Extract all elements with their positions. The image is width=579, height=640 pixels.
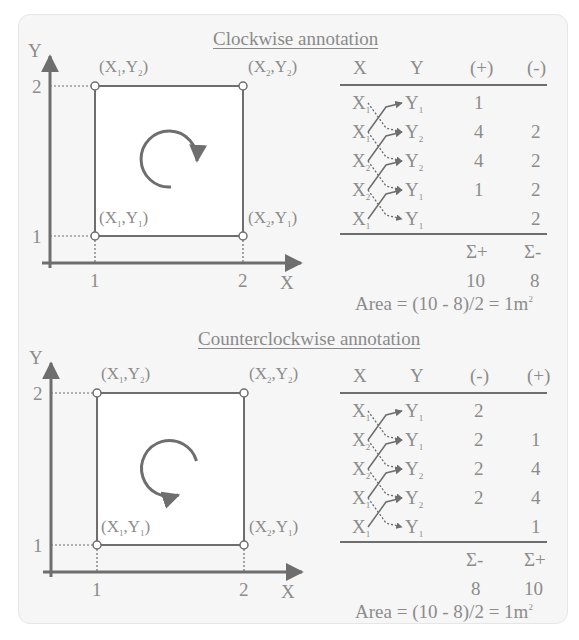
row-col4: 4 bbox=[531, 488, 541, 507]
row-x: X1 bbox=[352, 401, 370, 423]
table-header-3: (-) bbox=[527, 58, 546, 77]
point-label-top-right: (X2,Y2) bbox=[248, 58, 297, 78]
clockwise-title: Clockwise annotation bbox=[213, 28, 378, 50]
row-y: Y1 bbox=[405, 517, 423, 539]
row-x: X2 bbox=[352, 151, 370, 173]
sum-label-col3: Σ- bbox=[466, 550, 483, 569]
row-col4: 2 bbox=[531, 151, 541, 170]
row-y: Y1 bbox=[405, 180, 423, 202]
x-tick-1: 1 bbox=[90, 271, 100, 290]
y-tick-2: 2 bbox=[32, 77, 42, 96]
table-header-2: (-) bbox=[470, 366, 489, 385]
point-label-bottom-right: (X2,Y1) bbox=[248, 209, 297, 229]
table-header-0: X bbox=[353, 58, 367, 77]
row-col4: 2 bbox=[531, 180, 541, 199]
x-tick-1: 1 bbox=[92, 580, 102, 599]
sum-value-col4: 8 bbox=[530, 271, 540, 290]
vertex-point bbox=[91, 82, 99, 90]
table-header-0: X bbox=[353, 366, 367, 385]
vertex-point bbox=[239, 232, 247, 240]
diagram-svg bbox=[0, 0, 579, 640]
y-axis-label: Y bbox=[28, 41, 42, 60]
y-tick-1: 1 bbox=[32, 227, 42, 246]
row-y: Y2 bbox=[405, 151, 423, 173]
row-y: Y1 bbox=[405, 430, 423, 452]
table-header-2: (+) bbox=[470, 58, 493, 77]
vertex-point bbox=[239, 82, 247, 90]
point-label-bottom-right: (X2,Y1) bbox=[249, 518, 298, 538]
vertex-point bbox=[91, 232, 99, 240]
row-col3: 4 bbox=[474, 122, 484, 141]
row-col3: 2 bbox=[474, 401, 484, 420]
row-x: X2 bbox=[352, 459, 370, 481]
row-col4: 4 bbox=[531, 459, 541, 478]
y-tick-1: 1 bbox=[33, 536, 43, 555]
row-col3: 4 bbox=[474, 151, 484, 170]
vertex-point bbox=[240, 389, 248, 397]
point-label-top-left: (X1,Y2) bbox=[99, 58, 148, 78]
area-formula: Area = (10 - 8)/2 = 1m2 bbox=[355, 602, 533, 621]
vertex-point bbox=[240, 541, 248, 549]
sum-value-col3: 8 bbox=[471, 579, 481, 598]
area-formula: Area = (10 - 8)/2 = 1m2 bbox=[355, 294, 533, 313]
row-col3: 2 bbox=[474, 488, 484, 507]
row-col4: 2 bbox=[531, 209, 541, 228]
vertex-point bbox=[93, 541, 101, 549]
row-y: Y2 bbox=[405, 122, 423, 144]
row-col3: 2 bbox=[474, 430, 484, 449]
point-label-bottom-left: (X1,Y1) bbox=[99, 209, 148, 229]
row-col4: 1 bbox=[531, 430, 541, 449]
y-tick-2: 2 bbox=[33, 384, 43, 403]
row-x: X1 bbox=[352, 517, 370, 539]
point-label-bottom-left: (X1,Y1) bbox=[101, 518, 150, 538]
table-header-1: Y bbox=[410, 366, 424, 385]
row-x: X1 bbox=[352, 488, 370, 510]
point-label-top-left: (X1,Y2) bbox=[101, 365, 150, 385]
row-col3: 1 bbox=[474, 93, 484, 112]
row-y: Y1 bbox=[405, 93, 423, 115]
row-col3: 1 bbox=[474, 180, 484, 199]
counterclockwise-title: Counterclockwise annotation bbox=[198, 328, 420, 350]
row-x: X1 bbox=[352, 209, 370, 231]
sum-label-col4: Σ+ bbox=[524, 550, 546, 569]
row-y: Y2 bbox=[405, 459, 423, 481]
row-y: Y2 bbox=[405, 488, 423, 510]
x-axis-label: X bbox=[280, 273, 294, 292]
row-col4: 2 bbox=[531, 122, 541, 141]
sum-value-col3: 10 bbox=[466, 271, 485, 290]
x-tick-2: 2 bbox=[239, 580, 249, 599]
sum-value-col4: 10 bbox=[524, 579, 543, 598]
table-header-1: Y bbox=[410, 58, 424, 77]
point-label-top-right: (X2,Y2) bbox=[249, 365, 298, 385]
y-axis-label: Y bbox=[29, 348, 43, 367]
x-tick-2: 2 bbox=[238, 271, 248, 290]
sum-label-col4: Σ- bbox=[524, 242, 541, 261]
row-col4: 1 bbox=[531, 517, 541, 536]
x-axis-label: X bbox=[281, 582, 295, 601]
row-x: X1 bbox=[352, 93, 370, 115]
row-x: X2 bbox=[352, 430, 370, 452]
vertex-point bbox=[93, 389, 101, 397]
row-x: X1 bbox=[352, 122, 370, 144]
table-header-3: (+) bbox=[527, 366, 550, 385]
row-col3: 2 bbox=[474, 459, 484, 478]
sum-label-col3: Σ+ bbox=[466, 242, 488, 261]
row-x: X2 bbox=[352, 180, 370, 202]
row-y: Y1 bbox=[405, 401, 423, 423]
row-y: Y1 bbox=[405, 209, 423, 231]
